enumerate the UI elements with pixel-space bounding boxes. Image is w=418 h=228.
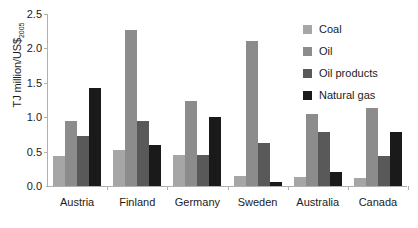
x-category-label: Australia (296, 196, 339, 208)
x-axis-line (46, 186, 407, 187)
legend-label: Natural gas (319, 89, 375, 101)
legend-item: Natural gas (303, 84, 415, 106)
bar (246, 41, 258, 186)
bar (270, 182, 282, 186)
bar (125, 30, 137, 186)
bar (197, 155, 209, 186)
bar (366, 108, 378, 186)
legend-swatch-icon (303, 25, 312, 34)
y-tick-label: 0.5 (27, 146, 42, 158)
bar (306, 114, 318, 186)
bar (378, 156, 390, 186)
bar (113, 150, 125, 186)
y-tick-label: 2.5 (27, 8, 42, 20)
x-category-label: Sweden (238, 196, 278, 208)
bar (234, 176, 246, 186)
legend-swatch-icon (303, 91, 312, 100)
x-category-label: Finland (119, 196, 155, 208)
bar (53, 156, 65, 186)
legend-swatch-icon (303, 69, 312, 78)
bar-group (173, 14, 221, 186)
bar (77, 136, 89, 186)
legend-item: Coal (303, 18, 415, 40)
legend: CoalOilOil productsNatural gas (303, 18, 415, 106)
bar (173, 155, 185, 186)
bar (89, 88, 101, 186)
x-tick-mark (228, 186, 229, 190)
legend-label: Oil products (319, 67, 378, 79)
bar (294, 177, 306, 186)
bar (209, 117, 221, 186)
bar (65, 121, 77, 186)
legend-item: Oil (303, 40, 415, 62)
legend-swatch-icon (303, 47, 312, 56)
y-tick-label: 0.0 (27, 180, 42, 192)
bar-group (53, 14, 101, 186)
x-axis-category-labels: AustriaFinlandGermanySwedenAustraliaCana… (47, 196, 408, 220)
x-category-label: Austria (60, 196, 94, 208)
bar-chart: TJ million/US$2005 0.00.51.01.52.02.5 Au… (0, 0, 418, 228)
bar-group (113, 14, 161, 186)
legend-label: Oil (319, 45, 332, 57)
x-category-label: Germany (175, 196, 220, 208)
bar-group (234, 14, 282, 186)
x-tick-mark (288, 186, 289, 190)
bar (137, 121, 149, 186)
bar (258, 143, 270, 186)
x-category-label: Canada (359, 196, 398, 208)
x-tick-mark (167, 186, 168, 190)
bar (390, 132, 402, 186)
bar (185, 101, 197, 186)
x-tick-mark (408, 186, 409, 190)
y-axis-tick-labels: 0.00.51.01.52.02.5 (16, 0, 42, 228)
bar (318, 132, 330, 186)
x-tick-mark (348, 186, 349, 190)
y-tick-label: 1.5 (27, 77, 42, 89)
bar (330, 172, 342, 186)
legend-label: Coal (319, 23, 342, 35)
y-tick-label: 2.0 (27, 42, 42, 54)
bar (149, 145, 161, 186)
bar (354, 178, 366, 186)
legend-item: Oil products (303, 62, 415, 84)
y-tick-label: 1.0 (27, 111, 42, 123)
x-tick-mark (107, 186, 108, 190)
